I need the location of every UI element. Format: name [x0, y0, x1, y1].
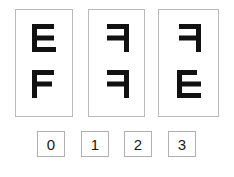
glyph-tieut-icon	[176, 69, 202, 99]
glyph-kieuk-icon	[176, 23, 202, 53]
panel-3-glyph-bottom-slot	[159, 62, 218, 106]
choice-label-3: 3	[178, 137, 186, 152]
glyph-kieuk-icon	[104, 23, 130, 53]
choice-label-2: 2	[134, 137, 142, 152]
panel-1-glyph-top-slot	[16, 16, 72, 60]
panel-3[interactable]	[158, 9, 219, 117]
choice-button-2[interactable]: 2	[124, 131, 152, 157]
panel-1[interactable]	[15, 9, 73, 117]
choice-button-1[interactable]: 1	[81, 131, 109, 157]
panel-2[interactable]	[88, 9, 145, 117]
panel-3-glyph-top-slot	[159, 16, 218, 60]
choice-label-0: 0	[47, 137, 55, 152]
panels-row	[0, 0, 234, 126]
choices-row: 0 1 2 3	[0, 131, 234, 177]
choice-button-0[interactable]: 0	[37, 131, 65, 157]
panel-1-glyph-bottom-slot	[16, 62, 72, 106]
glyph-ef-icon	[31, 69, 57, 99]
choice-label-1: 1	[91, 137, 99, 152]
panel-2-glyph-top-slot	[89, 16, 144, 60]
choice-button-3[interactable]: 3	[168, 131, 196, 157]
panel-2-glyph-bottom-slot	[89, 62, 144, 106]
glyph-kieuk-icon	[104, 69, 130, 99]
glyph-tieut-icon	[31, 23, 57, 53]
puzzle-root: 0 1 2 3	[0, 0, 234, 177]
